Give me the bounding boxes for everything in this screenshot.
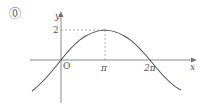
x-tick-2pi: 2π	[144, 64, 156, 73]
x-axis-label: x	[190, 63, 195, 72]
y-tick-2: 2	[53, 26, 59, 35]
origin-label: O	[63, 62, 70, 71]
x-tick-pi: π	[101, 64, 107, 73]
y-axis-label: y	[55, 12, 60, 21]
sine-graph	[0, 0, 208, 110]
